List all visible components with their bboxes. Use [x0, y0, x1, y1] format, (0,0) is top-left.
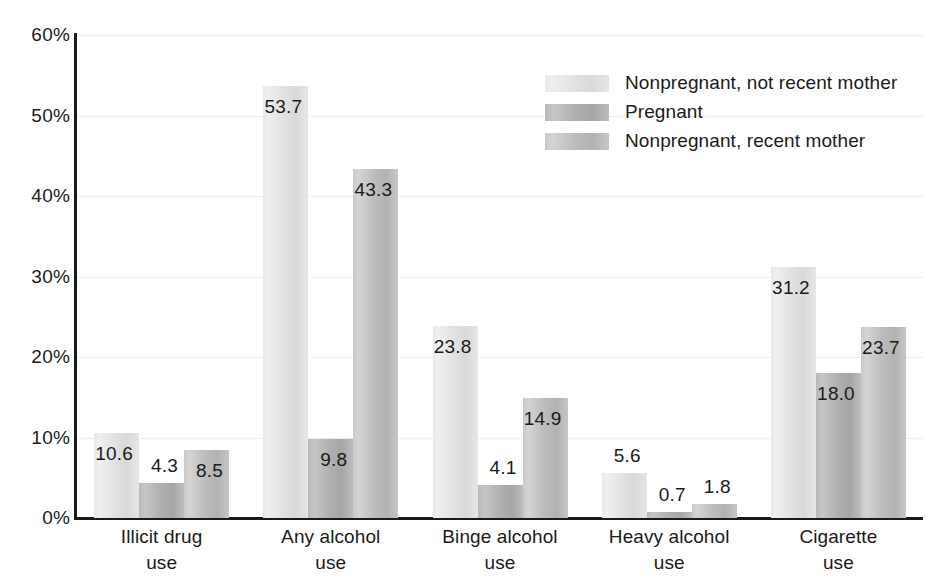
- legend-label-2: Pregnant: [625, 101, 703, 123]
- y-axis-tick-20: 20%: [8, 346, 70, 368]
- x-label-1: Illicit druguse: [77, 524, 246, 576]
- legend-swatch-icon-2: [545, 104, 609, 121]
- x-label-line-1: Cigarette: [799, 526, 877, 547]
- bar-value-5-series-3: 23.7: [821, 337, 900, 359]
- bar-group-1: 10.64.38.5: [94, 35, 229, 518]
- bar-value-4-series-3: 1.8: [652, 476, 731, 498]
- x-label-line-2: use: [246, 550, 415, 576]
- x-label-line-2: use: [585, 550, 754, 576]
- bar-value-3-series-1: 23.8: [393, 336, 472, 358]
- y-axis-tick-0: 0%: [8, 507, 70, 529]
- y-axis-tick-30: 30%: [8, 266, 70, 288]
- x-label-3: Binge alcoholuse: [415, 524, 584, 576]
- legend-item-3[interactable]: Nonpregnant, recent mother: [545, 128, 897, 154]
- bar-value-2-series-3: 43.3: [313, 179, 392, 201]
- bar-value-3-series-2: 4.1: [438, 457, 517, 479]
- bar-chart: 60%50%40%30%20%10%0% 10.64.38.553.79.843…: [0, 0, 935, 584]
- bar-group-2: 53.79.843.3: [263, 35, 398, 518]
- legend-item-2[interactable]: Pregnant: [545, 99, 897, 125]
- y-axis-tick-60: 60%: [8, 24, 70, 46]
- x-label-5: Cigaretteuse: [754, 524, 923, 576]
- x-label-line-2: use: [754, 550, 923, 576]
- legend-item-1[interactable]: Nonpregnant, not recent mother: [545, 70, 897, 96]
- bar-4-series-3[interactable]: [692, 504, 737, 518]
- x-label-4: Heavy alcoholuse: [585, 524, 754, 576]
- bar-value-5-series-1: 31.2: [731, 277, 810, 299]
- bar-value-5-series-2: 18.0: [776, 383, 855, 405]
- bar-1-series-2[interactable]: [139, 483, 184, 518]
- y-axis-tick-40: 40%: [8, 185, 70, 207]
- bar-value-1-series-3: 8.5: [144, 460, 223, 482]
- y-axis-tick-50: 50%: [8, 105, 70, 127]
- legend-label-3: Nonpregnant, recent mother: [625, 130, 865, 152]
- bar-3-series-2[interactable]: [478, 485, 523, 518]
- bar-4-series-2[interactable]: [647, 512, 692, 518]
- bar-value-3-series-3: 14.9: [483, 408, 562, 430]
- x-label-line-1: Heavy alcohol: [609, 526, 730, 547]
- bar-value-2-series-1: 53.7: [223, 96, 302, 118]
- x-axis-category-labels: Illicit druguseAny alcoholuseBinge alcoh…: [77, 524, 923, 584]
- x-label-line-1: Binge alcohol: [442, 526, 557, 547]
- legend-swatch-icon-3: [545, 133, 609, 150]
- x-label-line-1: Any alcohol: [281, 526, 380, 547]
- x-label-line-1: Illicit drug: [121, 526, 202, 547]
- bar-value-4-series-1: 5.6: [562, 445, 641, 467]
- legend-swatch-icon-1: [545, 75, 609, 92]
- bar-value-2-series-2: 9.8: [268, 449, 347, 471]
- x-label-line-2: use: [415, 550, 584, 576]
- x-label-line-2: use: [77, 550, 246, 576]
- legend: Nonpregnant, not recent motherPregnantNo…: [545, 70, 897, 157]
- legend-label-1: Nonpregnant, not recent mother: [625, 72, 897, 94]
- x-label-2: Any alcoholuse: [246, 524, 415, 576]
- y-axis-tick-labels: 60%50%40%30%20%10%0%: [0, 0, 70, 584]
